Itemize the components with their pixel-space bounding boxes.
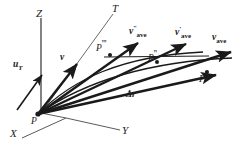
vector-label-v-text: v	[60, 52, 64, 62]
vector-label-u-t-sub: T	[18, 64, 22, 72]
vector-label-v-ave-3: v''ave	[129, 25, 147, 39]
vector-label-delta-r-text: Δr	[126, 89, 136, 99]
point-label-p1: P'	[199, 71, 206, 85]
axis-label-t: T	[112, 3, 118, 14]
point-label-p-text: P	[31, 116, 37, 126]
vector-label-v-ave-1-sub: ave	[216, 37, 226, 45]
point-label-p3-prime: '''	[102, 39, 106, 49]
point-marker-p3	[108, 53, 112, 57]
vector-label-v: v	[60, 53, 64, 63]
axis-label-x: X	[10, 128, 17, 139]
vector-u-t	[17, 75, 42, 110]
point-label-p3: P'''	[96, 40, 106, 54]
point-label-p: P	[31, 113, 37, 127]
point-label-p1-prime: '	[205, 70, 206, 80]
axis-line-x	[22, 118, 66, 138]
axis-vertical-drop	[41, 113, 66, 118]
point-marker-v-tip	[72, 66, 76, 70]
axis-label-y: Y	[122, 125, 128, 136]
point-label-p2-prime: ''	[154, 49, 157, 59]
vector-label-v-ave-2: v'ave	[175, 26, 191, 40]
vector-label-v-ave-1: vave	[212, 33, 226, 45]
vector-label-delta-r: Δr	[126, 90, 136, 100]
axis-line-y	[66, 118, 120, 130]
point-label-p2: P''	[148, 50, 157, 64]
axis-label-z: Z	[36, 8, 42, 19]
vector-label-v-ave-2-sub: ave	[181, 32, 191, 40]
vector-label-u-t: uT	[13, 60, 23, 72]
vector-label-v-ave-3-sub: ave	[137, 31, 147, 39]
vector-diagram-figure: Z X Y T P P''' P'' P' uT v v''ave v'ave …	[0, 0, 248, 155]
